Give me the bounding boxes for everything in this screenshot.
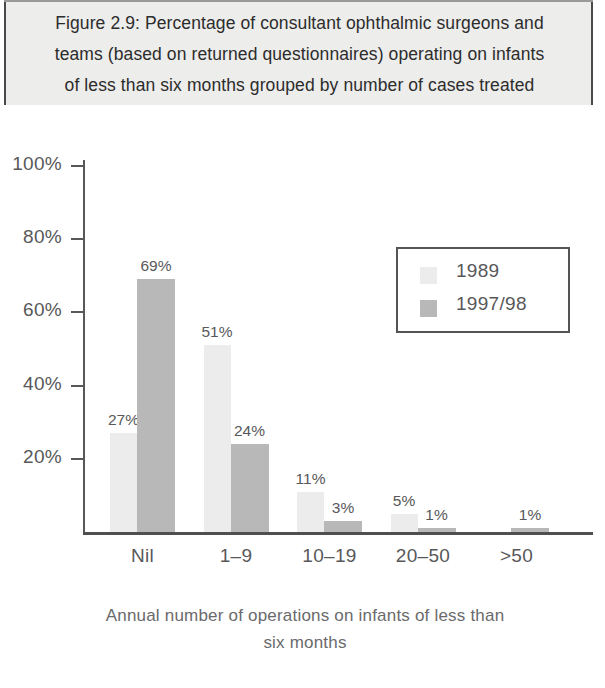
bar — [324, 521, 362, 532]
legend-swatch-icon-1997-98 — [420, 300, 437, 317]
x-axis-title: Annual number of operations on infants o… — [55, 602, 555, 656]
legend-item-1997-98: 1997/98 — [398, 293, 568, 326]
x-axis-category-label: >50 — [462, 545, 572, 567]
bar-value-label: 11% — [281, 470, 341, 488]
bar — [110, 433, 137, 532]
legend-label-1989: 1989 — [456, 260, 499, 282]
legend-label-1997-98: 1997/98 — [456, 293, 527, 315]
bar — [137, 279, 175, 532]
chart-legend: 1989 1997/98 — [396, 247, 570, 333]
bar-value-label: 1% — [500, 506, 560, 524]
figure-title: Figure 2.9: Percentage of consultant oph… — [26, 8, 573, 101]
bar-value-label: 1% — [407, 506, 467, 524]
legend-swatch-icon-1989 — [420, 267, 437, 284]
bar-value-label: 51% — [187, 323, 247, 341]
bar-value-label: 24% — [220, 422, 280, 440]
legend-item-1989: 1989 — [398, 260, 568, 293]
bar — [231, 444, 269, 532]
figure-page: Figure 2.9: Percentage of consultant oph… — [0, 0, 605, 688]
bar-value-label: 69% — [126, 257, 186, 275]
chart-plot-area: 100%80%60%40%20% 27%51%11%5%69%24%3%1%1%… — [0, 105, 605, 688]
bar — [511, 528, 549, 532]
x-axis-line — [83, 532, 593, 535]
bar-value-label: 3% — [313, 499, 373, 517]
figure-title-band: Figure 2.9: Percentage of consultant oph… — [6, 2, 591, 105]
bar — [418, 528, 456, 532]
